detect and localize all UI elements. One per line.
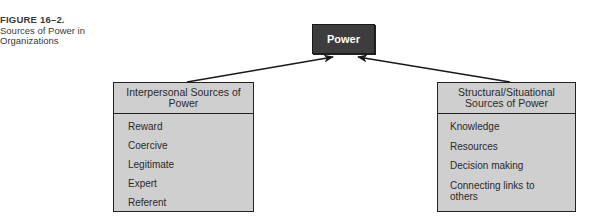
list-item: Referent: [114, 193, 253, 212]
list-item: Decision making: [438, 156, 575, 176]
list-item: Connecting links to others: [438, 176, 550, 203]
arrow-right-to-power: [358, 57, 510, 82]
power-label: Power: [327, 33, 360, 45]
structural-sources-list: Knowledge Resources Decision making Conn…: [438, 114, 575, 203]
interpersonal-sources-box: Interpersonal Sources of Power Reward Co…: [113, 82, 254, 212]
list-item: Reward: [114, 117, 253, 136]
arrow-left-to-power: [187, 57, 333, 82]
figure-title: Sources of Power in Organizations: [0, 26, 110, 47]
figure-label: FIGURE 16–2.: [0, 15, 110, 26]
figure-caption: FIGURE 16–2. Sources of Power in Organiz…: [0, 15, 110, 47]
structural-sources-header: Structural/Situational Sources of Power: [438, 83, 575, 114]
list-item: Coercive: [114, 136, 253, 155]
interpersonal-sources-list: Reward Coercive Legitimate Expert Refere…: [114, 114, 253, 212]
list-item: Expert: [114, 174, 253, 193]
list-item: Legitimate: [114, 155, 253, 174]
power-node: Power: [312, 24, 375, 54]
structural-sources-box: Structural/Situational Sources of Power …: [437, 82, 576, 212]
interpersonal-sources-header: Interpersonal Sources of Power: [114, 83, 253, 114]
list-item: Resources: [438, 137, 575, 157]
list-item: Knowledge: [438, 117, 575, 137]
